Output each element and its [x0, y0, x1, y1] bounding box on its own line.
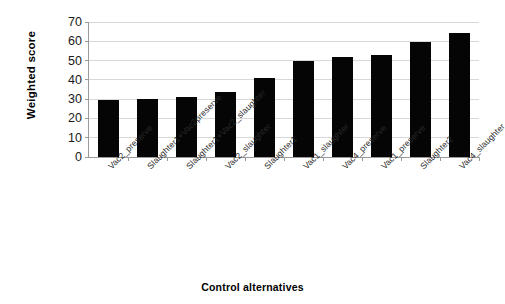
bar-chart: Weighted score 010203040506070 Vac2_pres… [0, 0, 505, 304]
x-axis-tick [479, 157, 480, 161]
x-axis-tick [440, 157, 441, 161]
x-axis-tick [128, 157, 129, 161]
y-axis-tick [85, 79, 89, 80]
x-axis-tick [401, 157, 402, 161]
x-axis-tick [362, 157, 363, 161]
y-axis-title: Weighted score [20, 0, 42, 150]
y-axis-tick-label: 0 [75, 150, 82, 164]
x-axis-tick [284, 157, 285, 161]
gridline [89, 22, 479, 23]
bar [98, 100, 119, 157]
y-axis-tick-label: 40 [68, 73, 82, 87]
x-axis-tick [245, 157, 246, 161]
y-axis-tick [85, 22, 89, 23]
y-axis-tick-label: 20 [68, 111, 82, 125]
y-axis-tick [85, 157, 89, 158]
x-axis-tick [206, 157, 207, 161]
y-axis-tick [85, 118, 89, 119]
y-axis-tick-label: 70 [68, 15, 82, 29]
y-axis-tick [85, 99, 89, 100]
y-axis-tick [85, 41, 89, 42]
y-axis-tick [85, 60, 89, 61]
x-axis-tick [167, 157, 168, 161]
y-axis-tick-label: 60 [68, 34, 82, 48]
x-axis-title: Control alternatives [0, 281, 505, 293]
y-axis-tick-label: 30 [68, 92, 82, 106]
y-axis-tick [85, 137, 89, 138]
x-axis-tick [323, 157, 324, 161]
y-axis-tick-label: 10 [68, 131, 82, 145]
y-axis-tick-label: 50 [68, 54, 82, 68]
